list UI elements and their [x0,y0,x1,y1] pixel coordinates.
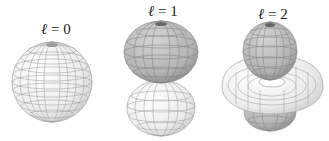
torus-l2 [222,22,323,131]
orbital-shapes [0,0,329,141]
sphere-l0 [12,42,92,122]
dumbbell-l1 [124,21,198,136]
